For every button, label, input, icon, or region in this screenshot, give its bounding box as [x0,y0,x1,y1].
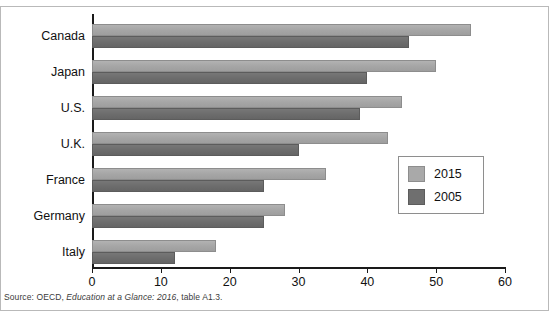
x-tick-label: 20 [210,275,250,289]
source-note: Source: OECD, Education at a Glance: 201… [4,292,223,302]
bar-2015 [92,204,285,216]
bar-2005 [92,216,264,228]
source-title: Education at a Glance: 2016 [66,292,176,302]
bar-2015 [92,96,402,108]
x-tick [505,267,506,273]
legend-item-2005: 2005 [408,187,462,207]
bar-group-u-s: U.S. [92,90,505,126]
bar-2005 [92,72,367,84]
legend-swatch-2005 [408,189,425,205]
x-tick-label: 50 [416,275,456,289]
category-label: France [46,162,85,198]
x-tick-label: 30 [279,275,319,289]
figure-container: CanadaJapanU.S.U.K.FranceGermanyItaly 01… [0,0,550,318]
bar-2015 [92,132,388,144]
bar-group-italy: Italy [92,234,505,270]
legend-label-2005: 2005 [434,190,462,204]
category-label: Italy [62,234,85,270]
x-tick-label: 10 [141,275,181,289]
bar-2015 [92,168,326,180]
source-suffix: , table A1.3. [176,292,222,302]
legend-label-2015: 2015 [434,167,462,181]
bar-2015 [92,240,216,252]
plot-area: CanadaJapanU.S.U.K.FranceGermanyItaly [92,16,505,268]
bar-2005 [92,36,409,48]
x-tick [230,267,231,273]
x-tick [436,267,437,273]
legend-item-2015: 2015 [408,164,462,184]
bar-2015 [92,60,436,72]
x-tick-label: 0 [72,275,112,289]
x-tick-label: 60 [485,275,525,289]
category-label: Germany [34,198,85,234]
x-tick [367,267,368,273]
category-label: Japan [51,54,85,90]
legend-swatch-2015 [408,166,425,182]
category-label: U.S. [61,90,85,126]
bar-group-japan: Japan [92,54,505,90]
x-tick [299,267,300,273]
x-tick [161,267,162,273]
category-label: U.K. [61,126,85,162]
bar-2005 [92,252,175,264]
x-tick [92,267,93,273]
category-label: Canada [41,18,85,54]
bar-2005 [92,108,360,120]
x-tick-label: 40 [347,275,387,289]
bar-2015 [92,24,471,36]
bar-2005 [92,180,264,192]
bar-group-canada: Canada [92,18,505,54]
bar-2005 [92,144,299,156]
chart-legend: 2015 2005 [398,156,484,214]
source-prefix: Source: OECD, [4,292,66,302]
